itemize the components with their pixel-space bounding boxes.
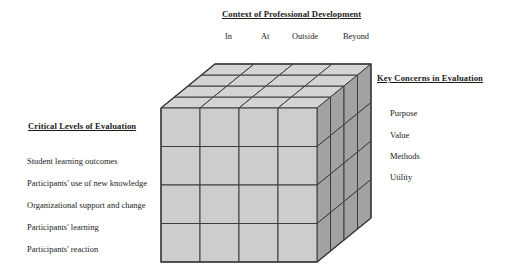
evaluation-cube [0,0,510,279]
cube-front-cell [239,185,278,224]
cube-front-cell [200,147,239,186]
cube-front-cell [239,147,278,186]
cube-front-cell [239,224,278,263]
cube-front-cell [278,185,317,224]
cube-front-cell [200,185,239,224]
cube-front-cell [161,185,200,224]
cube-front-cell [239,108,278,147]
cube-front-cell [200,108,239,147]
cube-front-cell [161,108,200,147]
cube-front-cell [278,147,317,186]
cube-front-cell [200,224,239,263]
cube-front-cell [278,108,317,147]
cube-front-cell [161,224,200,263]
cube-front-cell [161,147,200,186]
cube-group [161,64,371,262]
diagram-canvas: Context of Professional Development In A… [0,0,510,279]
cube-front-cell [278,224,317,263]
